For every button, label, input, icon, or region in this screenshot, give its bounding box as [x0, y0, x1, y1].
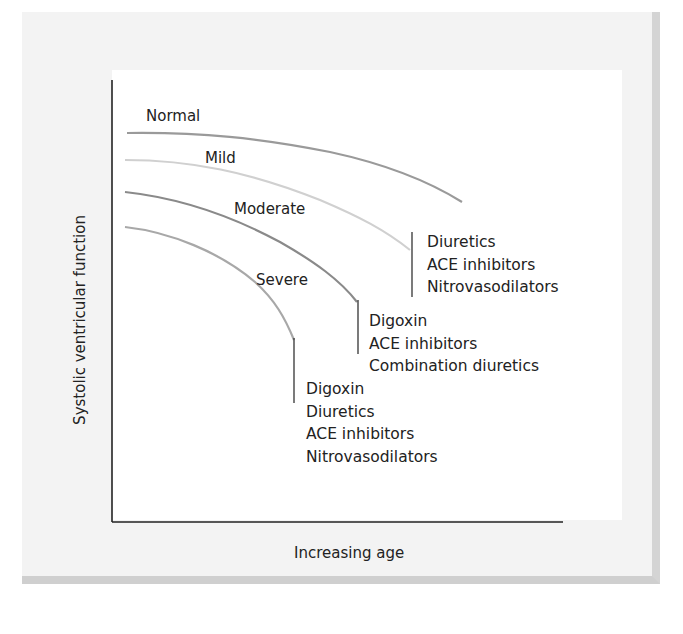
treatment-item: Nitrovasodilators [427, 276, 559, 299]
treatment-item: Digoxin [306, 378, 438, 401]
treatment-item: Combination diuretics [369, 355, 539, 378]
treatment-item: Digoxin [369, 310, 539, 333]
treatment-item: ACE inhibitors [427, 254, 559, 277]
treatment-item: Diuretics [306, 401, 438, 424]
treatment-list-mild: Diuretics ACE inhibitors Nitrovasodilato… [427, 231, 559, 299]
label-mild: Mild [205, 149, 236, 167]
treatment-item: ACE inhibitors [306, 423, 438, 446]
label-normal: Normal [146, 107, 200, 125]
treatment-list-moderate: Digoxin ACE inhibitors Combination diure… [369, 310, 539, 378]
y-axis-label: Systolic ventricular function [71, 215, 89, 425]
treatment-item: ACE inhibitors [369, 333, 539, 356]
x-axis-label: Increasing age [294, 544, 404, 562]
treatment-item: Nitrovasodilators [306, 446, 438, 469]
treatment-item: Diuretics [427, 231, 559, 254]
curve-normal [127, 133, 462, 202]
treatment-list-severe: Digoxin Diuretics ACE inhibitors Nitrova… [306, 378, 438, 468]
label-severe: Severe [256, 271, 308, 289]
label-moderate: Moderate [234, 200, 305, 218]
chart-canvas [0, 0, 683, 634]
